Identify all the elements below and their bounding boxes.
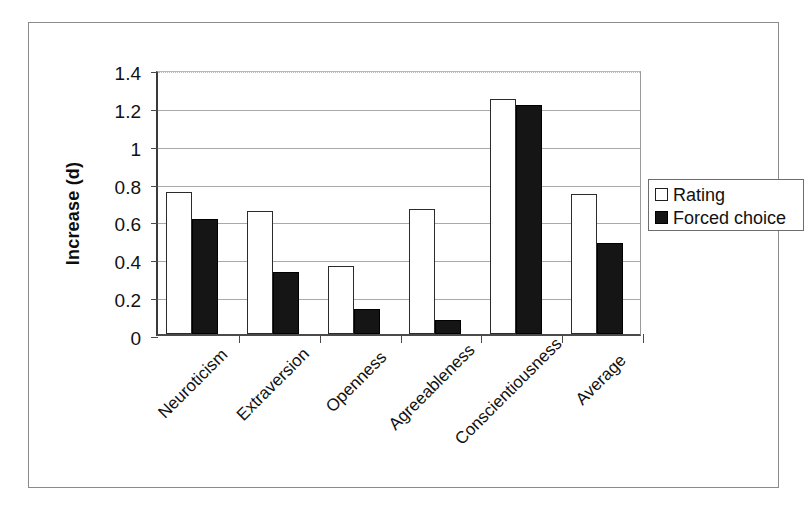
bar-forced-choice[interactable] xyxy=(435,320,461,334)
y-axis-tick: 1.2 xyxy=(151,110,158,111)
y-axis-title-label: Increase (d) xyxy=(64,161,85,264)
bar-rating[interactable] xyxy=(409,209,435,334)
x-axis-category-label: Openness xyxy=(323,348,390,415)
bar-rating[interactable] xyxy=(166,192,192,334)
y-axis-tick-label: 0.8 xyxy=(115,177,141,196)
y-axis-tick: 0.6 xyxy=(151,223,158,224)
bar-forced-choice[interactable] xyxy=(516,105,542,334)
legend-item-label: Rating xyxy=(673,186,725,204)
y-axis-tick: 1 xyxy=(151,148,158,149)
x-axis-tick xyxy=(239,334,240,343)
legend-item-forced-choice[interactable]: Forced choice xyxy=(655,206,798,229)
y-axis-tick: 0.8 xyxy=(151,186,158,187)
gridline xyxy=(158,223,640,224)
figure-frame: Increase (d) 00.20.40.60.811.21.4 Neurot… xyxy=(28,22,779,488)
bar-rating[interactable] xyxy=(247,211,273,334)
y-axis-tick-label: 0.6 xyxy=(115,215,141,234)
x-axis-category-label: Neuroticism xyxy=(155,346,230,421)
x-axis-category-label: Extraversion xyxy=(234,345,313,424)
y-axis-tick-label: 0 xyxy=(130,329,141,348)
plot-area: 00.20.40.60.811.21.4 xyxy=(156,71,641,336)
bar-rating[interactable] xyxy=(490,99,516,334)
x-axis-tick xyxy=(562,334,563,343)
bar-forced-choice[interactable] xyxy=(597,243,623,334)
x-axis-category-label: Agreeableness xyxy=(386,341,478,433)
y-axis-tick: 1.4 xyxy=(151,72,158,73)
x-axis-tick xyxy=(643,334,644,343)
x-axis-tick xyxy=(401,334,402,343)
y-axis-title: Increase (d) xyxy=(59,143,89,283)
legend-item-label: Forced choice xyxy=(673,209,786,227)
open-square-icon xyxy=(655,188,668,201)
bar-forced-choice[interactable] xyxy=(354,309,380,334)
bar-forced-choice[interactable] xyxy=(273,272,299,334)
x-axis-tick xyxy=(320,334,321,343)
y-axis-tick-label: 0.2 xyxy=(115,291,141,310)
legend: Rating Forced choice xyxy=(648,179,804,231)
filled-square-icon xyxy=(655,211,668,224)
y-axis-tick-label: 1.4 xyxy=(115,64,141,83)
x-axis-category-label: Average xyxy=(573,351,630,408)
gridline xyxy=(158,110,640,111)
y-axis-tick: 0.2 xyxy=(151,299,158,300)
x-axis-tick xyxy=(481,334,482,343)
gridline xyxy=(158,299,640,300)
y-axis-tick-label: 1.2 xyxy=(115,101,141,120)
y-axis-tick: 0.4 xyxy=(151,261,158,262)
gridline xyxy=(158,148,640,149)
gridline xyxy=(158,261,640,262)
y-axis-tick: 0 xyxy=(151,337,158,338)
bar-rating[interactable] xyxy=(328,266,354,334)
gridline xyxy=(158,186,640,187)
y-axis-tick-label: 1 xyxy=(130,139,141,158)
legend-item-rating[interactable]: Rating xyxy=(655,183,798,206)
y-axis-tick-label: 0.4 xyxy=(115,253,141,272)
bar-forced-choice[interactable] xyxy=(192,219,218,334)
gridline xyxy=(158,72,640,73)
bar-rating[interactable] xyxy=(571,194,597,334)
